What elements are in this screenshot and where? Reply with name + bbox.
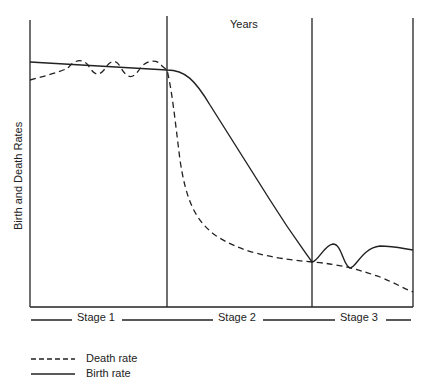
death-rate-line bbox=[30, 61, 413, 292]
legend: Death rate Birth rate bbox=[31, 352, 137, 379]
stage-3-label: Stage 3 bbox=[340, 311, 378, 323]
demographic-transition-chart: Years Birth and Death Rates Stage 1 Stag… bbox=[0, 0, 426, 390]
y-axis-title: Birth and Death Rates bbox=[12, 121, 24, 230]
x-axis-title: Years bbox=[230, 18, 258, 30]
birth-rate-line bbox=[30, 62, 413, 268]
legend-birth-rate: Birth rate bbox=[86, 367, 131, 379]
legend-death-rate: Death rate bbox=[86, 352, 137, 364]
stage-2-label: Stage 2 bbox=[218, 311, 256, 323]
stage-1-label: Stage 1 bbox=[77, 311, 115, 323]
